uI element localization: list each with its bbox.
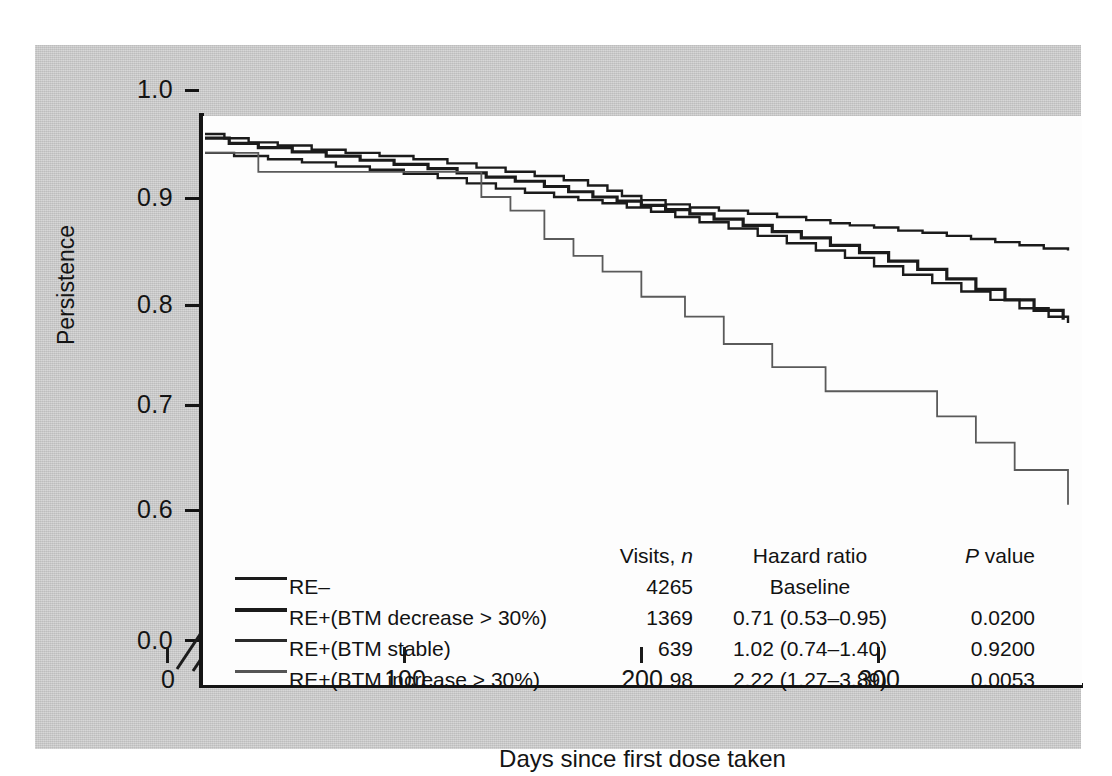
legend-line-swatch-re-minus bbox=[235, 577, 287, 580]
legend-hazard-ratio-btm-decrease: 0.71 (0.53–0.95) bbox=[705, 606, 915, 630]
legend-header-visits: Visits, n bbox=[577, 544, 705, 568]
legend-swatch-cell-0 bbox=[231, 563, 289, 594]
legend-line-swatch-btm-decrease bbox=[235, 608, 287, 612]
legend-visits-btm-decrease: 1369 bbox=[577, 606, 705, 630]
curve-1 bbox=[205, 134, 1068, 251]
y-tick-label-1-0: 1.0 bbox=[107, 77, 173, 102]
legend-header-p-italic: P bbox=[965, 544, 979, 567]
y-axis-title: Persistence bbox=[53, 225, 80, 345]
curve-paths bbox=[205, 134, 1068, 505]
y-tick-label-0-8: 0.8 bbox=[107, 292, 173, 317]
y-tick-label-0-7: 0.7 bbox=[107, 392, 173, 417]
legend-label-re-minus: RE– bbox=[289, 575, 577, 599]
figure-root: Persistence 1.0 0.9 0.8 0.7 0.6 0.0 bbox=[0, 0, 1112, 776]
legend-swatch-cell-1 bbox=[231, 594, 289, 625]
legend-label-btm-increase: RE+(BTM increase > 30%) bbox=[289, 668, 577, 692]
legend-header-p-rest: value bbox=[979, 544, 1035, 567]
legend-label-btm-stable: RE+(BTM stable) bbox=[289, 637, 577, 661]
y-tick-mark-0-9 bbox=[185, 197, 199, 200]
legend-header-swatch-spacer bbox=[231, 532, 289, 563]
y-tick-mark-0-7 bbox=[185, 404, 199, 407]
legend-header-visits-n: n bbox=[681, 544, 693, 567]
legend-swatch-cell-2 bbox=[231, 625, 289, 656]
legend-hazard-ratio-btm-stable: 1.02 (0.74–1.40) bbox=[705, 637, 915, 661]
legend-p-value-btm-stable: 0.9200 bbox=[915, 637, 1035, 661]
legend-visits-btm-stable: 639 bbox=[577, 637, 705, 661]
curve-3 bbox=[205, 153, 1068, 323]
x-tick-label-0: 0 bbox=[123, 667, 213, 692]
curve-2 bbox=[205, 138, 1063, 320]
y-tick-label-0-9: 0.9 bbox=[107, 185, 173, 210]
y-tick-mark-0-8 bbox=[185, 304, 199, 307]
legend-table: Visits, n Hazard ratio P value RE– 4265 … bbox=[231, 532, 1031, 687]
y-tick-label-0-0: 0.0 bbox=[107, 628, 173, 653]
curve-4 bbox=[205, 153, 1068, 505]
legend-header-visits-text: Visits, bbox=[620, 544, 676, 567]
legend-header-row: Visits, n Hazard ratio P value bbox=[231, 532, 1031, 563]
legend-header-p-value: P value bbox=[915, 544, 1035, 568]
y-tick-label-0-6: 0.6 bbox=[107, 497, 173, 522]
legend-header-hazard-ratio: Hazard ratio bbox=[705, 544, 915, 568]
x-tick-mark-0 bbox=[166, 647, 169, 663]
legend-label-btm-decrease: RE+(BTM decrease > 30%) bbox=[289, 606, 577, 630]
legend-hazard-ratio-re-minus: Baseline bbox=[705, 575, 915, 599]
legend-visits-re-minus: 4265 bbox=[577, 575, 705, 599]
y-tick-mark-0-6 bbox=[185, 509, 199, 512]
legend-p-value-btm-increase: 0.0053 bbox=[915, 668, 1035, 692]
legend-p-value-btm-decrease: 0.0200 bbox=[915, 606, 1035, 630]
y-tick-mark-1-0 bbox=[185, 89, 199, 92]
legend-line-swatch-btm-increase bbox=[235, 670, 287, 673]
figure-plate: Persistence 1.0 0.9 0.8 0.7 0.6 0.0 bbox=[35, 45, 1081, 749]
legend-visits-btm-increase: 98 bbox=[577, 668, 705, 692]
x-axis-title: Days since first dose taken bbox=[203, 745, 1082, 773]
legend-swatch-cell-3 bbox=[231, 656, 289, 687]
legend-hazard-ratio-btm-increase: 2.22 (1.27–3.89) bbox=[705, 668, 915, 692]
legend-line-swatch-btm-stable bbox=[235, 639, 287, 642]
